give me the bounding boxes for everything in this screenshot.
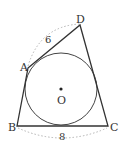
quadrilateral-abcd [17, 25, 108, 126]
label-c: C [110, 121, 118, 134]
length-ad: 6 [45, 34, 51, 45]
label-o: O [57, 94, 66, 107]
center-point [59, 87, 62, 90]
label-b: B [8, 121, 16, 134]
geometry-diagram: A B C D O 6 8 [0, 0, 127, 152]
length-bc: 8 [59, 131, 65, 142]
label-a: A [19, 61, 29, 74]
measure-arc-ad [28, 24, 80, 66]
label-d: D [76, 13, 85, 26]
